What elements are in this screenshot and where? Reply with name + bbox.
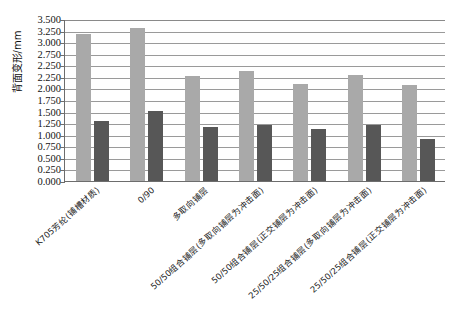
plot-area bbox=[64, 20, 445, 182]
x-axis-tick-label: 25/50/25组合铺层(正交铺层为冲击面) bbox=[308, 183, 430, 295]
y-axis-tick-labels: 3.5003.2503.0002.7502.2502.2502.0001.750… bbox=[22, 14, 63, 184]
y-axis-tick-label: 0.750 bbox=[37, 141, 61, 153]
bar-group bbox=[174, 20, 228, 181]
bar bbox=[293, 84, 308, 181]
y-axis-tick-label: 2.000 bbox=[37, 83, 61, 95]
bar bbox=[311, 129, 326, 181]
x-axis-tick-label-text: 50/50组合铺层(正交铺层为冲击面) bbox=[209, 183, 321, 286]
y-axis-tick-label: 3.250 bbox=[37, 26, 61, 38]
bars-layer bbox=[65, 20, 445, 181]
x-axis-tick-label: 0/90 bbox=[135, 183, 158, 205]
bar bbox=[203, 127, 218, 181]
x-axis-tick-label-text: 0/90 bbox=[135, 183, 158, 205]
y-axis-tick-label: 1.250 bbox=[37, 118, 61, 130]
bar-group bbox=[119, 20, 173, 181]
x-axis-tick-label: 50/50组合铺层(多取向铺层为冲击面) bbox=[148, 183, 267, 292]
bar-group bbox=[392, 20, 446, 181]
y-axis-tick-label: 1.500 bbox=[37, 107, 61, 119]
x-axis-tick-label-text: 50/50组合铺层(多取向铺层为冲击面) bbox=[148, 183, 267, 292]
bar bbox=[257, 125, 272, 181]
bar-group bbox=[337, 20, 391, 181]
bar bbox=[402, 85, 417, 181]
x-axis-tick-label-text: 多取向铺层 bbox=[170, 183, 212, 223]
y-axis-tick-label: 2.750 bbox=[37, 49, 61, 61]
bar bbox=[185, 76, 200, 181]
x-axis-tick-label: 多取向铺层 bbox=[170, 183, 212, 223]
bar bbox=[348, 75, 363, 181]
y-axis-tick-label: 3.000 bbox=[37, 37, 61, 49]
y-axis-tick-label: 1.000 bbox=[37, 130, 61, 142]
x-axis-tick-label: 50/50组合铺层(正交铺层为冲击面) bbox=[209, 183, 321, 286]
x-axis-tick-labels: K705芳纶(铺槽材质)0/90多取向铺层50/50组合铺层(多取向铺层为冲击面… bbox=[0, 183, 457, 319]
bar-group bbox=[283, 20, 337, 181]
bar bbox=[366, 125, 381, 181]
bar bbox=[148, 111, 163, 181]
y-axis-tick-label: 2.250 bbox=[37, 60, 61, 72]
bar-group bbox=[228, 20, 282, 181]
x-axis-tick-label-text: 25/50/25组合铺层(正交铺层为冲击面) bbox=[308, 183, 430, 295]
bar bbox=[130, 28, 145, 181]
y-axis-tick-label: 1.750 bbox=[37, 95, 61, 107]
bar bbox=[76, 34, 91, 181]
bar bbox=[94, 121, 109, 181]
y-axis-tick-label: 0.500 bbox=[37, 153, 61, 165]
bar-chart: 背面变形/mm 3.5003.2503.0002.7502.2502.2502.… bbox=[0, 0, 457, 319]
x-axis-tick-label: K705芳纶(铺槽材质) bbox=[34, 183, 104, 248]
bar-group bbox=[65, 20, 119, 181]
bar bbox=[239, 71, 254, 181]
x-axis-tick-label-text: K705芳纶(铺槽材质) bbox=[34, 183, 104, 248]
y-axis-tick-label: 3.500 bbox=[37, 14, 61, 26]
y-axis-tick-label: 2.250 bbox=[37, 72, 61, 84]
bar bbox=[420, 139, 435, 181]
y-axis-tick-label: 0.250 bbox=[37, 164, 61, 176]
